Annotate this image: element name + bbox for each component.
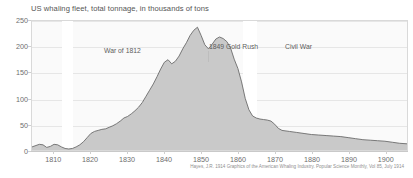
x-axis-tick-label: 1830: [119, 155, 135, 164]
source-caption: Hayes, J.R. 1914 Graphics of the America…: [0, 164, 404, 169]
x-axis-tick-label: 1810: [45, 155, 61, 164]
x-axis-tick: [386, 151, 387, 154]
x-axis: 1810182018301840185018601870188018901900: [31, 151, 408, 165]
x-axis-tick-label: 1860: [230, 155, 246, 164]
x-axis-tick: [349, 151, 350, 154]
annotation-gold-rush: 1849 Gold Rush: [209, 43, 258, 50]
x-axis-tick: [201, 151, 202, 154]
x-axis-tick-label: 1840: [156, 155, 172, 164]
x-axis-tick: [127, 151, 128, 154]
x-axis-tick: [312, 151, 313, 154]
area-series: [32, 21, 407, 150]
x-axis-tick-label: 1870: [267, 155, 283, 164]
x-axis-tick: [238, 151, 239, 154]
chart-figure: US whaling fleet, total tonnage, in thou…: [0, 0, 413, 178]
y-axis-tick-label: 150: [4, 68, 28, 77]
annotation-civil-war: Civil War: [285, 43, 312, 50]
x-axis-tick-label: 1900: [378, 155, 394, 164]
x-axis-tick-label: 1890: [341, 155, 357, 164]
x-axis-tick-label: 1880: [304, 155, 320, 164]
plot-area: War of 1812 1849 Gold Rush Civil War: [31, 20, 408, 151]
y-axis-tick-label: 100: [4, 95, 28, 104]
x-axis-tick: [275, 151, 276, 154]
y-axis-tick-label: 200: [4, 42, 28, 51]
x-axis-tick: [164, 151, 165, 154]
y-axis-tick-label: 50: [4, 121, 28, 130]
x-axis-tick-label: 1820: [82, 155, 98, 164]
y-axis-tick-label: 0: [4, 147, 28, 156]
annotation-war-of-1812: War of 1812: [104, 47, 141, 54]
x-axis-tick-label: 1850: [193, 155, 209, 164]
x-axis-tick: [90, 151, 91, 154]
y-axis: 050100150200250: [0, 0, 28, 178]
y-axis-tick-label: 250: [4, 16, 28, 25]
annotation-gold-rush-leader-line: [208, 51, 209, 62]
chart-title: US whaling fleet, total tonnage, in thou…: [31, 4, 209, 13]
x-axis-tick: [53, 151, 54, 154]
